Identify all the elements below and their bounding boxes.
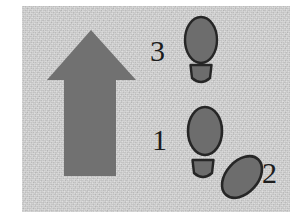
footprint-1 [188,107,222,177]
footprint-3-heel-icon [191,65,212,82]
footprint-3 [185,17,217,82]
footprint-3-sole-icon [185,17,217,63]
step-label-1: 1 [152,125,167,155]
figure-canvas: 3 1 2 [0,0,304,223]
footprint-1-heel-icon [193,160,214,177]
footprint-1-sole-icon [188,107,222,155]
direction-arrow-icon [47,30,136,176]
step-label-2: 2 [262,158,277,188]
step-label-3: 3 [150,36,165,66]
